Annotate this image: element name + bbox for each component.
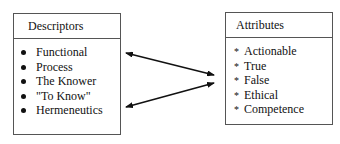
connector-arrows bbox=[0, 0, 340, 144]
double-arrow-icon bbox=[126, 53, 214, 75]
double-arrow-icon bbox=[126, 83, 214, 107]
